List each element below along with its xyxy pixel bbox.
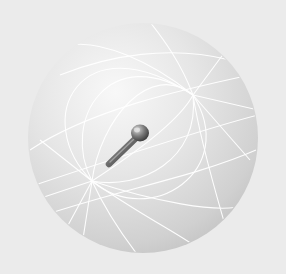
sphere-scene: Grey sphere with white great-circle grid… (0, 0, 286, 274)
pin-head (131, 125, 149, 142)
sphere-illustration (0, 0, 286, 274)
